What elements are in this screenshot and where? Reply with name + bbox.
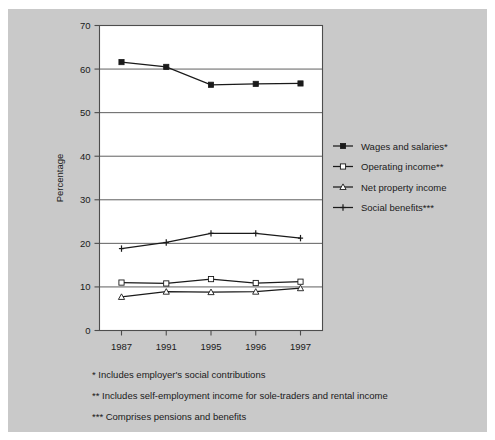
x-tick-label-1996: 1996 <box>245 341 266 352</box>
footnote-2: ** Includes self-employment income for s… <box>92 390 388 401</box>
legend-item-3[interactable]: Social benefits*** <box>333 202 434 213</box>
x-tick-label-1995: 1995 <box>200 341 221 352</box>
legend-item-1[interactable]: Operating income** <box>333 161 444 172</box>
data-point-0-0 <box>119 60 124 65</box>
data-point-1-2 <box>208 276 213 281</box>
data-point-0-1 <box>164 64 169 69</box>
y-axis-title-text: Percentage <box>54 154 65 203</box>
x-axis-ticks: 19871991199519961997 <box>111 331 311 352</box>
data-point-0-3 <box>253 81 258 86</box>
footnotes: * Includes employer's social contributio… <box>92 369 388 422</box>
data-point-0-4 <box>298 81 303 86</box>
y-tick-label-0: 0 <box>85 325 90 336</box>
legend-label-0: Wages and salaries* <box>361 141 448 152</box>
footnote-3: *** Comprises pensions and benefits <box>92 411 246 422</box>
x-tick-label-1997: 1997 <box>290 341 311 352</box>
data-point-1-3 <box>253 280 258 285</box>
x-tick-label-1991: 1991 <box>156 341 177 352</box>
x-tick-label-1987: 1987 <box>111 341 132 352</box>
legend-marker-cross-icon <box>340 204 345 210</box>
y-tick-label-60: 60 <box>80 64 91 75</box>
legend-label-3: Social benefits*** <box>361 202 434 213</box>
footnote-1: * Includes employer's social contributio… <box>92 369 266 380</box>
legend-marker-open-square-icon <box>340 164 345 169</box>
legend-marker-filled-square-icon <box>340 143 345 148</box>
line-chart: 010203040506070 19871991199519961997 Per… <box>0 0 495 440</box>
legend-item-2[interactable]: Net property income <box>333 182 447 193</box>
data-point-1-0 <box>119 280 124 285</box>
y-tick-label-50: 50 <box>80 107 91 118</box>
y-tick-label-30: 30 <box>80 194 91 205</box>
chart-legend: Wages and salaries*Operating income**Net… <box>333 141 448 214</box>
y-axis-ticks: 010203040506070 <box>80 20 100 336</box>
legend-label-2: Net property income <box>361 182 447 193</box>
legend-item-0[interactable]: Wages and salaries* <box>333 141 448 152</box>
plot-background <box>100 26 323 331</box>
y-tick-label-10: 10 <box>80 281 91 292</box>
y-tick-label-20: 20 <box>80 238 91 249</box>
figure-container: 010203040506070 19871991199519961997 Per… <box>0 0 495 440</box>
plot-area <box>100 26 323 331</box>
data-point-1-4 <box>298 279 303 284</box>
y-tick-label-40: 40 <box>80 151 91 162</box>
data-point-1-1 <box>164 281 169 286</box>
y-tick-label-70: 70 <box>80 20 91 31</box>
legend-label-1: Operating income** <box>361 161 444 172</box>
data-point-0-2 <box>208 82 213 87</box>
y-axis-title: Percentage <box>54 154 65 203</box>
